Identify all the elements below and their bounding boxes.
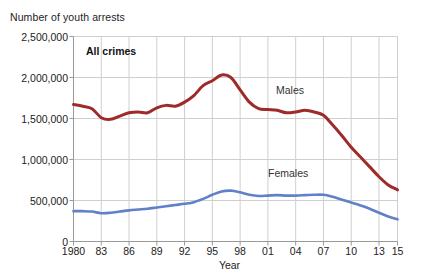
series-line-females	[74, 191, 398, 220]
x-tick-label: 15	[392, 245, 404, 257]
x-tick-label: 07	[318, 245, 330, 257]
x-tick-label: 1980	[62, 245, 85, 257]
x-tick-label: 83	[95, 245, 107, 257]
x-axis-title-text: Year	[219, 259, 240, 271]
series-label-females: Females	[268, 167, 308, 179]
x-tick-label: 13	[373, 245, 385, 257]
y-tick-label: 2,000,000	[21, 72, 68, 84]
x-tick-label: 92	[179, 245, 191, 257]
axis-tick-marks	[70, 37, 398, 246]
x-tick-label: 86	[123, 245, 135, 257]
x-tick-label: 10	[345, 245, 357, 257]
x-tick-label: 95	[207, 245, 219, 257]
y-tick-label: 500,000	[30, 195, 68, 207]
series-label-males: Males	[276, 84, 304, 96]
x-axis-title: Year	[0, 259, 431, 271]
chart-container: Number of youth arrests 0500,0001,000,00…	[0, 0, 431, 279]
data-series-layer	[74, 75, 398, 220]
x-tick-label: 89	[151, 245, 163, 257]
panel-label-all-crimes: All crimes	[86, 45, 136, 57]
x-tick-label: 01	[262, 245, 274, 257]
series-line-males	[74, 75, 398, 190]
y-tick-label: 2,500,000	[21, 31, 68, 43]
x-tick-label: 04	[290, 245, 302, 257]
x-tick-label: 98	[234, 245, 246, 257]
y-tick-label: 1,000,000	[21, 154, 68, 166]
y-tick-label: 1,500,000	[21, 113, 68, 125]
